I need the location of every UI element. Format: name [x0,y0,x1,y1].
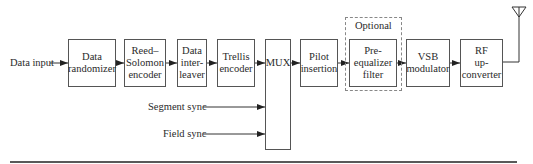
reed-solomon-encoder-block: Reed– Solomon encoder [124,39,166,87]
trellis-encoder-block: Trellis encoder [217,39,255,87]
data-randomizer-block: Data randomizer [68,39,116,87]
mux-block: MUX [265,39,291,150]
block-label: Data randomizer [68,51,116,75]
rf-up-converter-block: RF up- converter [460,39,503,87]
pre-equalizer-filter-block: Pre- equalizer filter [349,39,397,87]
pilot-insertion-block: Pilot insertion [300,39,338,87]
data-input-label: Data input [10,57,54,69]
block-label: VSB modulator [406,51,449,75]
segment-sync-label: Segment sync [148,101,207,113]
block-label: RF up- converter [462,45,502,81]
block-label: Reed– Solomon encoder [126,45,164,81]
block-label: Pre- equalizer filter [354,45,392,81]
block-label: Pilot insertion [301,51,338,75]
block-label: MUX [266,57,291,69]
block-label: Trellis encoder [219,51,252,75]
block-label: Data inter- leaver [179,45,205,81]
data-interleaver-block: Data inter- leaver [177,39,207,87]
optional-label: Optional [355,20,392,32]
antenna-icon [512,7,526,17]
field-sync-label: Field sync [163,128,206,140]
vsb-modulator-block: VSB modulator [406,39,450,87]
